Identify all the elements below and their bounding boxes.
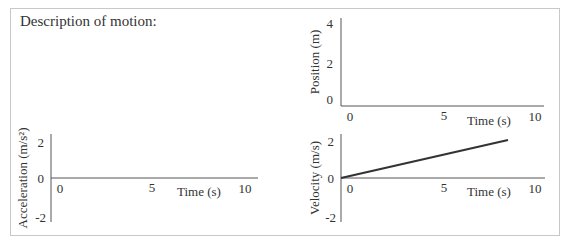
velocity-y-label: Velocity (m/s) bbox=[307, 141, 322, 215]
velocity-y-tick-0: 0 bbox=[328, 171, 335, 186]
velocity-x-tick-0: 0 bbox=[347, 181, 354, 196]
position-y-tick-2: 2 bbox=[327, 56, 334, 71]
motion-graphs: 4 2 0 0 5 10 Time (s) Position (m) 2 0 -… bbox=[0, 0, 572, 244]
velocity-x-label: Time (s) bbox=[467, 184, 511, 199]
acceleration-y-tick-neg2: -2 bbox=[35, 210, 46, 225]
acceleration-x-label: Time (s) bbox=[177, 184, 221, 199]
acceleration-x-tick-0: 0 bbox=[57, 181, 64, 196]
acceleration-y-tick-0: 0 bbox=[38, 171, 45, 186]
acceleration-x-tick-5: 5 bbox=[149, 180, 156, 195]
velocity-x-tick-5: 5 bbox=[441, 180, 448, 195]
position-y-label: Position (m) bbox=[307, 30, 322, 95]
velocity-series-line bbox=[341, 140, 508, 178]
position-x-tick-5: 5 bbox=[441, 108, 448, 123]
position-y-tick-4: 4 bbox=[327, 16, 334, 31]
acceleration-y-label: Acceleration (m/s²) bbox=[15, 128, 30, 229]
position-x-tick-10: 10 bbox=[529, 109, 542, 124]
acceleration-graph: 2 0 -2 0 5 10 Time (s) Acceleration (m/s… bbox=[15, 128, 258, 229]
position-x-label: Time (s) bbox=[467, 113, 511, 128]
acceleration-y-tick-2: 2 bbox=[38, 135, 45, 150]
position-x-tick-0: 0 bbox=[347, 109, 354, 124]
velocity-y-tick-neg2: -2 bbox=[325, 210, 336, 225]
position-y-tick-0: 0 bbox=[327, 92, 334, 107]
acceleration-x-tick-10: 10 bbox=[239, 181, 252, 196]
position-graph: 4 2 0 0 5 10 Time (s) Position (m) bbox=[307, 16, 544, 128]
velocity-x-tick-10: 10 bbox=[529, 181, 542, 196]
velocity-y-tick-2: 2 bbox=[328, 134, 335, 149]
velocity-graph: 2 0 -2 0 5 10 Time (s) Velocity (m/s) bbox=[307, 134, 545, 225]
